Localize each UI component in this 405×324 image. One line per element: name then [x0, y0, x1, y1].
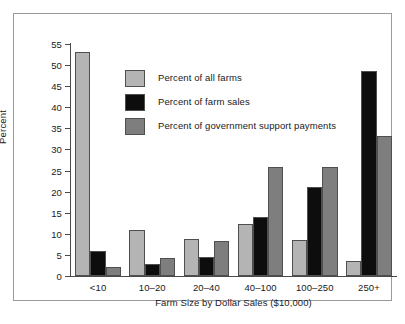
bar [184, 239, 199, 276]
x-axis-category-label: 250+ [329, 282, 405, 293]
y-axis-tick-label: 0 [57, 271, 62, 282]
bar [377, 136, 392, 276]
y-axis-tick-label: 35 [51, 123, 62, 134]
legend-swatch [125, 94, 145, 111]
legend-label: Percent of government support payments [158, 120, 336, 131]
y-axis-tick-label: 45 [51, 81, 62, 92]
bar [160, 258, 175, 276]
legend-swatch [125, 118, 145, 135]
y-axis-tick-label: 5 [57, 249, 62, 260]
y-axis-tick [65, 276, 70, 277]
bar [199, 257, 214, 276]
y-axis-tick-label: 20 [51, 186, 62, 197]
y-axis-tick [65, 213, 70, 214]
y-axis-title: Percent [0, 110, 8, 144]
y-axis-tick-label: 25 [51, 165, 62, 176]
y-axis-tick [65, 171, 70, 172]
legend-label: Percent of farm sales [158, 96, 250, 107]
y-axis-tick [65, 86, 70, 87]
bar [361, 71, 376, 276]
bar [253, 217, 268, 276]
figure-frame: Percent 0510152025303540455055 <1010–202… [13, 13, 392, 301]
bar [322, 167, 337, 276]
y-axis-tick-label: 55 [51, 39, 62, 50]
chart-figure: Percent 0510152025303540455055 <1010–202… [0, 0, 405, 324]
bar [238, 224, 253, 276]
y-axis-tick [65, 65, 70, 66]
y-axis-tick-label: 10 [51, 228, 62, 239]
bar [307, 187, 322, 276]
bar [292, 240, 307, 276]
bar [106, 267, 121, 276]
bar [90, 251, 105, 276]
x-axis-title: Farm Size by Dollar Sales ($10,000) [71, 297, 396, 308]
y-axis-tick-label: 30 [51, 144, 62, 155]
y-axis-tick [65, 192, 70, 193]
bar [145, 264, 160, 276]
y-axis-tick [65, 128, 70, 129]
bar [129, 230, 144, 276]
y-axis-tick [65, 149, 70, 150]
legend-label: Percent of all farms [158, 72, 242, 83]
y-axis-tick-label: 40 [51, 102, 62, 113]
y-axis-tick-label: 15 [51, 207, 62, 218]
bar [75, 52, 90, 276]
legend-swatch [125, 70, 145, 87]
x-axis-line [70, 276, 397, 277]
y-axis-tick [65, 234, 70, 235]
bar [268, 167, 283, 276]
y-axis-tick [65, 44, 70, 45]
y-axis-tick-label: 50 [51, 60, 62, 71]
bar [214, 241, 229, 276]
y-axis-tick [65, 255, 70, 256]
y-axis-tick [65, 107, 70, 108]
bar [346, 261, 361, 276]
